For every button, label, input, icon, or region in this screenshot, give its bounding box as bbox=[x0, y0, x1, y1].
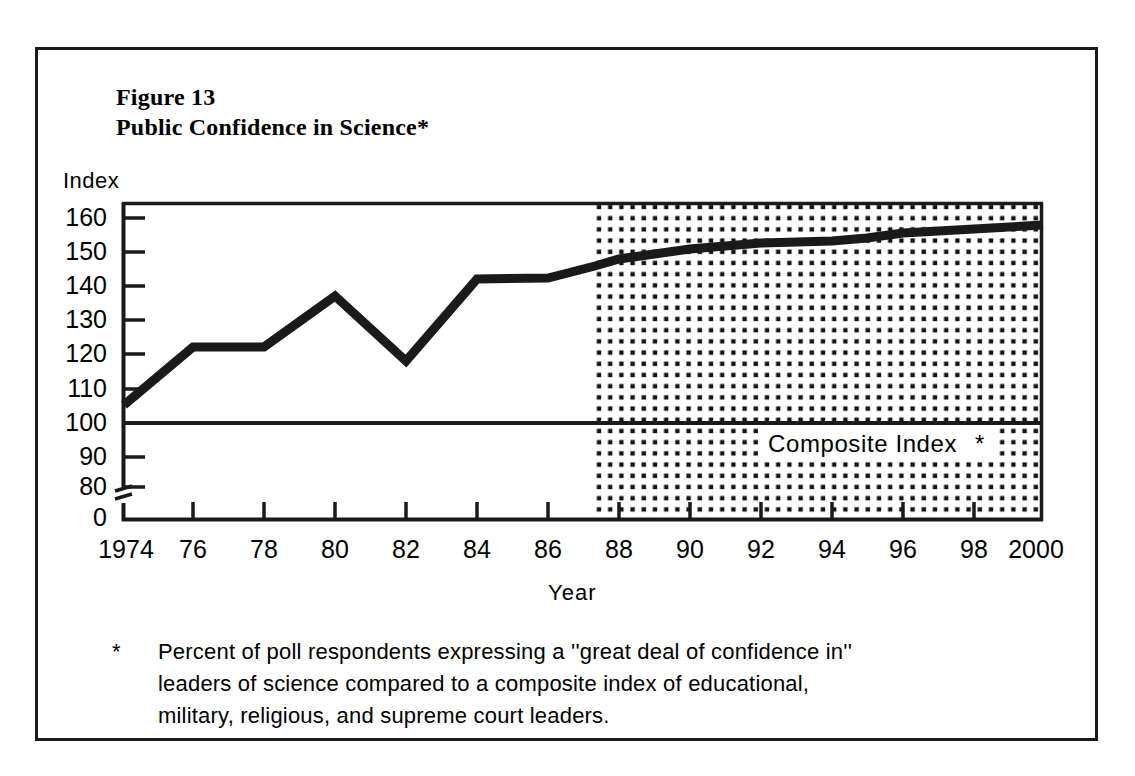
x-tick-label: 88 bbox=[605, 536, 633, 562]
x-tick-label: 98 bbox=[960, 536, 988, 562]
footnote-line-2: leaders of science compared to a composi… bbox=[158, 668, 998, 700]
y-tick-label: 110 bbox=[37, 376, 107, 401]
x-tick-label: 86 bbox=[534, 536, 562, 562]
composite-index-footnote-marker: * bbox=[975, 430, 985, 457]
y-tick-label: 80 bbox=[37, 474, 107, 499]
x-tick-label: 80 bbox=[321, 536, 349, 562]
x-tick-label: 90 bbox=[676, 536, 704, 562]
y-tick-label: 100 bbox=[37, 410, 107, 435]
y-tick-label: 150 bbox=[37, 239, 107, 264]
footnote-text: Percent of poll respondents expressing a… bbox=[158, 636, 998, 732]
x-tick-label: 78 bbox=[250, 536, 278, 562]
figure-root: Figure 13 Public Confidence in Science* … bbox=[0, 0, 1135, 776]
footnote-line-3: military, religious, and supreme court l… bbox=[158, 700, 998, 732]
composite-index-annotation: Composite Index* bbox=[758, 428, 995, 462]
footnote-line-1: Percent of poll respondents expressing a… bbox=[158, 636, 998, 668]
x-tick-label: 82 bbox=[392, 536, 420, 562]
y-tick-label: 160 bbox=[37, 205, 107, 230]
x-tick-label: 92 bbox=[747, 536, 775, 562]
x-tick-label: 84 bbox=[463, 536, 491, 562]
x-tick-label: 1974 bbox=[98, 536, 154, 562]
y-tick-label: 90 bbox=[37, 444, 107, 469]
x-tick-label: 96 bbox=[889, 536, 917, 562]
composite-index-label: Composite Index bbox=[768, 430, 957, 457]
y-tick-marks bbox=[124, 218, 145, 487]
x-axis-title: Year bbox=[548, 580, 596, 606]
x-tick-label: 76 bbox=[179, 536, 207, 562]
footnote-marker: * bbox=[112, 636, 121, 668]
x-tick-label: 94 bbox=[818, 536, 846, 562]
y-tick-label: 140 bbox=[37, 273, 107, 298]
y-tick-label: 0 bbox=[37, 505, 107, 530]
y-tick-label: 130 bbox=[37, 307, 107, 332]
x-tick-label: 2000 bbox=[1008, 536, 1064, 562]
y-tick-label: 120 bbox=[37, 341, 107, 366]
